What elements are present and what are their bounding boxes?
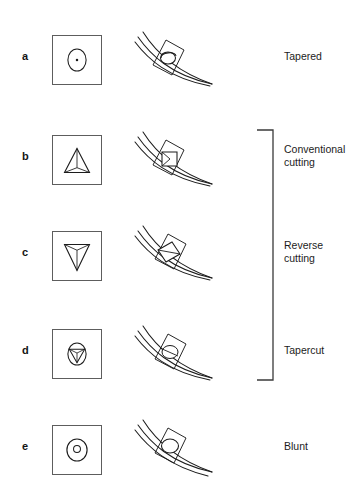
curved-needle-icon bbox=[120, 18, 235, 100]
circle-with-inner-circle-icon bbox=[53, 426, 101, 474]
table-row: e Blunt bbox=[0, 410, 360, 481]
row-label-c: Reverse cutting bbox=[284, 239, 360, 265]
row-label-d-line1: Tapercut bbox=[284, 344, 360, 357]
table-row: c Reverse cutting bbox=[0, 216, 360, 296]
cross-section-box-a bbox=[52, 35, 102, 85]
table-row: b Conventional cut bbox=[0, 120, 360, 200]
cross-section-box-e bbox=[52, 425, 102, 475]
row-label-b-line2: cutting bbox=[284, 156, 360, 169]
needle-drawing-d bbox=[120, 312, 235, 394]
needle-drawing-c bbox=[120, 212, 235, 294]
triangle-up-icon bbox=[53, 136, 101, 184]
needle-drawing-b bbox=[120, 118, 235, 200]
row-letter-a: a bbox=[22, 50, 28, 62]
cross-section-box-d bbox=[52, 329, 102, 379]
row-label-c-line2: cutting bbox=[284, 252, 360, 265]
row-label-b-line1: Conventional bbox=[284, 143, 360, 156]
circle-with-center-dot-icon bbox=[53, 36, 101, 84]
row-label-b: Conventional cutting bbox=[284, 143, 360, 169]
row-letter-c: c bbox=[22, 246, 28, 258]
needle-drawing-a bbox=[120, 18, 235, 100]
curved-needle-icon bbox=[120, 212, 235, 294]
bracket-icon bbox=[256, 129, 276, 381]
row-label-d: Tapercut bbox=[284, 344, 360, 357]
needle-types-figure: a Tapered bbox=[0, 0, 360, 481]
cutting-needles-group-bracket bbox=[256, 129, 276, 381]
needle-drawing-e bbox=[120, 406, 235, 481]
cross-section-box-c bbox=[52, 231, 102, 281]
curved-needle-icon bbox=[120, 406, 235, 481]
row-letter-b: b bbox=[22, 150, 29, 162]
table-row: d Tapercut bbox=[0, 314, 360, 394]
curved-needle-icon bbox=[120, 118, 235, 200]
row-label-a-line1: Tapered bbox=[284, 50, 360, 63]
row-label-c-line1: Reverse bbox=[284, 239, 360, 252]
row-letter-e: e bbox=[22, 440, 28, 452]
row-label-e: Blunt bbox=[284, 440, 360, 453]
row-letter-d: d bbox=[22, 344, 29, 356]
table-row: a Tapered bbox=[0, 20, 360, 100]
curved-needle-icon bbox=[120, 312, 235, 394]
triangle-down-icon bbox=[53, 232, 101, 280]
cross-section-box-b bbox=[52, 135, 102, 185]
row-label-a: Tapered bbox=[284, 50, 360, 63]
row-label-e-line1: Blunt bbox=[284, 440, 360, 453]
circle-with-triangle-down-icon bbox=[53, 330, 101, 378]
